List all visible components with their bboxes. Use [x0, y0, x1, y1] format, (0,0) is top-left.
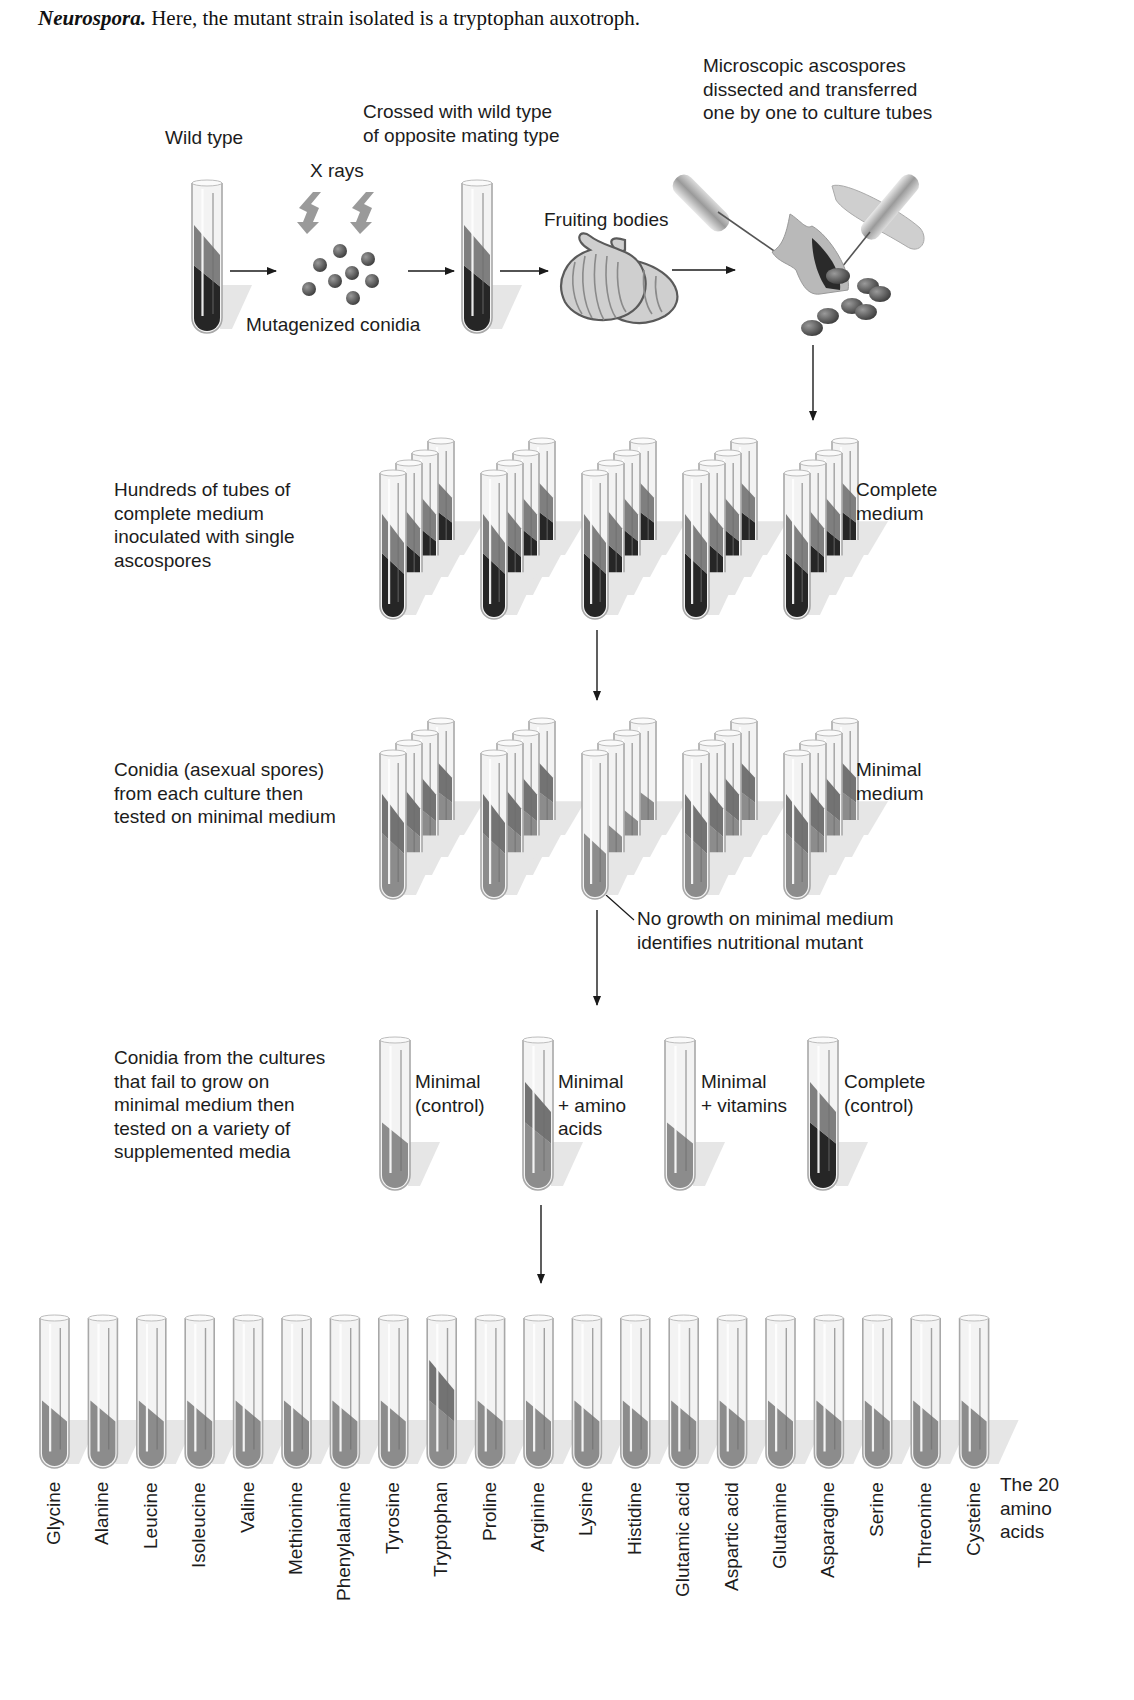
amino-acid-label: Lysine — [575, 1482, 597, 1536]
crossed-tube — [462, 180, 522, 333]
amino-acid-label: Threonine — [914, 1482, 936, 1568]
amino-acid-label: Cysteine — [963, 1482, 985, 1556]
complete-medium-cluster-4 — [683, 438, 787, 619]
amino-acid-label: Histidine — [624, 1482, 646, 1555]
minimal-medium-cluster-1 — [380, 718, 484, 899]
amino-acid-tube-cysteine — [960, 1315, 1019, 1468]
wild-type-tube — [192, 180, 252, 333]
amino-acid-label: Leucine — [140, 1482, 162, 1549]
amino-acid-label: Aspartic acid — [721, 1482, 743, 1591]
supplement-label-complete-control: Complete (control) — [844, 1070, 925, 1117]
complete-medium-cluster-5 — [784, 438, 888, 619]
wild-type-label: Wild type — [165, 126, 243, 150]
mutagenized-conidia-label: Mutagenized conidia — [246, 313, 420, 337]
complete-medium-cluster-1 — [380, 438, 484, 619]
amino-acid-label: Tryptophan — [430, 1482, 452, 1577]
amino-acid-label: Phenylalanine — [333, 1482, 355, 1601]
amino-acid-label: Valine — [237, 1482, 259, 1533]
amino-acid-label: Serine — [866, 1482, 888, 1537]
complete-medium-label: Complete medium — [856, 478, 937, 525]
twenty-amino-acids-label: The 20 amino acids — [1000, 1473, 1059, 1544]
amino-acid-label: Tyrosine — [382, 1482, 404, 1554]
amino-acid-label: Isoleucine — [188, 1482, 210, 1568]
minimal-medium-cluster-3 — [582, 718, 686, 899]
complete-medium-cluster-3 — [582, 438, 686, 619]
amino-acid-label: Asparagine — [817, 1482, 839, 1578]
supplement-label-amino-acids: Minimal + amino acids — [558, 1070, 626, 1141]
amino-acid-label: Methionine — [285, 1482, 307, 1575]
supplement-label-minimal-control: Minimal (control) — [415, 1070, 485, 1117]
xrays-label: X rays — [310, 159, 364, 183]
minimal-medium-cluster-4 — [683, 718, 787, 899]
amino-acid-label: Glycine — [43, 1482, 65, 1545]
crossed-label: Crossed with wild type of opposite matin… — [363, 100, 559, 147]
fruiting-bodies-label: Fruiting bodies — [544, 208, 669, 232]
amino-acid-label: Glutamine — [769, 1482, 791, 1569]
amino-acid-label: Arginine — [527, 1482, 549, 1552]
minimal-medium-cluster-2 — [481, 718, 585, 899]
test-tubes-layer — [0, 0, 1134, 1700]
supplement-label-vitamins: Minimal + vitamins — [701, 1070, 787, 1117]
minimal-medium-cluster-5 — [784, 718, 888, 899]
amino-acid-label: Alanine — [91, 1482, 113, 1545]
step2-description: Hundreds of tubes of complete medium ino… — [114, 478, 295, 572]
minimal-medium-label: Minimal medium — [856, 758, 924, 805]
amino-acid-label: Glutamic acid — [672, 1482, 694, 1597]
dissection-label: Microscopic ascospores dissected and tra… — [703, 54, 932, 125]
complete-medium-cluster-2 — [481, 438, 585, 619]
amino-acid-label: Proline — [479, 1482, 501, 1541]
step4-description: Conidia from the cultures that fail to g… — [114, 1046, 325, 1164]
step3-description: Conidia (asexual spores) from each cultu… — [114, 758, 336, 829]
no-growth-note: No growth on minimal medium identifies n… — [637, 907, 894, 954]
